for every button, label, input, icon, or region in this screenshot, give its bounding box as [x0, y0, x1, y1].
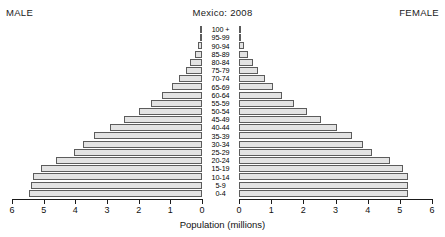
- bar-male: [12, 34, 202, 41]
- bar-male: [12, 92, 202, 99]
- age-group-label: 20-24: [202, 157, 239, 164]
- bar-female-fill: [239, 190, 408, 197]
- bar-female-fill: [239, 132, 352, 139]
- bar-female: [239, 75, 432, 82]
- bar-male: [12, 116, 202, 123]
- bar-female: [239, 173, 432, 180]
- bar-female-fill: [239, 83, 273, 90]
- bar-female: [239, 157, 432, 164]
- bar-female-fill: [239, 75, 265, 82]
- age-group-label: 5-9: [202, 182, 239, 189]
- bar-female-fill: [239, 157, 390, 164]
- bar-female: [239, 116, 432, 123]
- bar-male: [12, 42, 202, 49]
- bar-male: [12, 124, 202, 131]
- bar-female-fill: [239, 59, 253, 66]
- axis-tick-label: 2: [129, 205, 149, 216]
- age-group-label: 60-64: [202, 92, 239, 99]
- bar-male-fill: [190, 59, 202, 66]
- bar-male: [12, 141, 202, 148]
- axis-tick-label: 5: [390, 205, 410, 216]
- axis-tick-label: 0: [192, 205, 212, 216]
- bar-male-fill: [172, 83, 202, 90]
- bar-female-fill: [239, 165, 403, 172]
- axis-tick: [44, 200, 45, 204]
- axis-tick: [139, 200, 140, 204]
- bar-female: [239, 190, 432, 197]
- bar-male-fill: [29, 190, 202, 197]
- x-axis-title: Population (millions): [0, 219, 445, 230]
- age-group-label: 55-59: [202, 100, 239, 107]
- bar-female: [239, 124, 432, 131]
- bar-female: [239, 34, 432, 41]
- bar-female: [239, 59, 432, 66]
- axis-tick-label: 1: [160, 205, 180, 216]
- bar-male: [12, 157, 202, 164]
- bar-male-fill: [139, 108, 202, 115]
- bar-male: [12, 182, 202, 189]
- female-legend-label: FEMALE: [399, 7, 439, 18]
- bar-male-fill: [162, 92, 202, 99]
- age-group-label: 90-94: [202, 43, 239, 50]
- page-title: Mexico: 2008: [0, 7, 445, 18]
- bar-male: [12, 26, 202, 33]
- bar-male: [12, 132, 202, 139]
- bar-male-fill: [41, 165, 203, 172]
- bar-male-fill: [83, 141, 202, 148]
- axis-tick-label: 0: [229, 205, 249, 216]
- bar-female: [239, 100, 432, 107]
- bar-male: [12, 173, 202, 180]
- bar-female: [239, 67, 432, 74]
- age-group-label: 70-74: [202, 75, 239, 82]
- bar-male: [12, 190, 202, 197]
- bar-female-fill: [239, 92, 282, 99]
- bar-female-fill: [239, 173, 408, 180]
- bar-female: [239, 26, 432, 33]
- bar-male-fill: [151, 100, 202, 107]
- bar-male: [12, 75, 202, 82]
- axis-tick-label: 3: [97, 205, 117, 216]
- bar-male: [12, 149, 202, 156]
- bar-male-fill: [33, 173, 202, 180]
- bar-male-fill: [94, 132, 202, 139]
- axis-tick-label: 2: [293, 205, 313, 216]
- bar-female: [239, 165, 432, 172]
- bar-female-fill: [239, 182, 408, 189]
- bar-female-fill: [239, 116, 321, 123]
- bar-female: [239, 51, 432, 58]
- age-group-label: 95-99: [202, 34, 239, 41]
- bar-female: [239, 83, 432, 90]
- axis-tick-label: 4: [65, 205, 85, 216]
- axis-tick: [202, 200, 203, 204]
- age-group-label: 25-29: [202, 149, 239, 156]
- axis-tick: [432, 200, 433, 204]
- bar-male-fill: [124, 116, 202, 123]
- bar-male-fill: [74, 149, 202, 156]
- axis-tick: [303, 200, 304, 204]
- axis-tick-label: 6: [422, 205, 442, 216]
- age-group-label: 45-49: [202, 116, 239, 123]
- bar-male-fill: [31, 182, 202, 189]
- age-group-label: 35-39: [202, 133, 239, 140]
- axis-tick-label: 1: [261, 205, 281, 216]
- age-group-label: 10-14: [202, 174, 239, 181]
- bar-female-fill: [239, 34, 241, 41]
- bar-male-fill: [179, 75, 202, 82]
- axis-tick-label: 4: [358, 205, 378, 216]
- age-group-label: 100 +: [202, 26, 239, 33]
- axis-tick: [12, 200, 13, 204]
- male-bars-group: [12, 26, 202, 198]
- age-group-label: 50-54: [202, 108, 239, 115]
- bar-female: [239, 141, 432, 148]
- bar-male: [12, 59, 202, 66]
- bar-female: [239, 182, 432, 189]
- bar-female: [239, 149, 432, 156]
- population-pyramid-chart: MALE Mexico: 2008 FEMALE 100 +95-9990-94…: [0, 0, 445, 237]
- bar-female-fill: [239, 100, 294, 107]
- bar-female-fill: [239, 51, 248, 58]
- bar-female-fill: [239, 67, 258, 74]
- age-group-labels: 100 +95-9990-9485-8980-8475-7970-7465-69…: [202, 26, 239, 204]
- axis-tick-label: 3: [326, 205, 346, 216]
- axis-tick: [336, 200, 337, 204]
- bar-male-fill: [110, 124, 202, 131]
